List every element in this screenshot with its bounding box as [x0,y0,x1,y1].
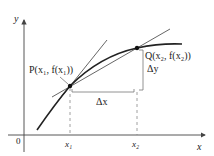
delta-y-label: Δy [147,63,158,74]
point-q-label: Q(x₂, f(x₂)) [145,50,191,62]
x-axis-label: x [196,141,202,152]
x1-tick-label: x₁ [64,139,72,149]
point-p [68,84,72,88]
delta-x-bracket [72,89,134,92]
x2-tick-label: x₂ [131,139,139,149]
y-axis-label: y [13,13,19,24]
delta-x-label: Δx [96,96,107,107]
p-label-pointer [60,77,68,84]
secant-diagram: y x 0 x₁ x₂ P(x₁, f(x₁)) Q(x₂, f(x₂)) Δx… [0,0,214,156]
point-q [135,46,139,50]
origin-label: 0 [16,136,21,146]
point-p-label: P(x₁, f(x₁)) [29,64,73,76]
delta-y-bracket [139,50,143,90]
